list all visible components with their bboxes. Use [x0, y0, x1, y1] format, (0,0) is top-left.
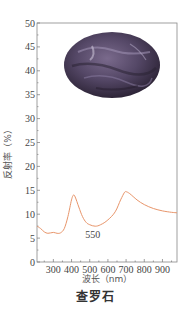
y-tick-label: 50: [25, 18, 35, 29]
reflectance-curve: [37, 192, 177, 234]
y-tick-label: 20: [25, 161, 35, 172]
y-tick-label: 5: [30, 233, 35, 244]
chart-caption: 查罗石: [0, 287, 191, 304]
y-tick-label: 40: [25, 65, 35, 76]
stone-photo: [64, 32, 160, 98]
y-tick-label: 0: [30, 257, 35, 268]
x-tick-label: 900: [155, 264, 170, 275]
y-tick-label: 45: [25, 41, 35, 52]
y-tick-label: 30: [25, 113, 35, 124]
x-axis: 300400500600700800900: [44, 259, 171, 275]
reflectance-chart: 05101520253035404550 3004005006007008009…: [0, 0, 191, 310]
x-tick-label: 800: [137, 264, 152, 275]
y-tick-label: 10: [25, 209, 35, 220]
x-tick-label: 300: [46, 264, 61, 275]
annotation-550: 550: [85, 229, 100, 240]
y-tick-label: 15: [25, 185, 35, 196]
y-axis-title: 反射率（%）: [2, 125, 13, 179]
y-axis: 05101520253035404550: [25, 18, 40, 268]
x-axis-title: 波长（nm）: [82, 273, 132, 284]
y-tick-label: 35: [25, 89, 35, 100]
y-tick-label: 25: [25, 137, 35, 148]
x-tick-label: 400: [64, 264, 79, 275]
